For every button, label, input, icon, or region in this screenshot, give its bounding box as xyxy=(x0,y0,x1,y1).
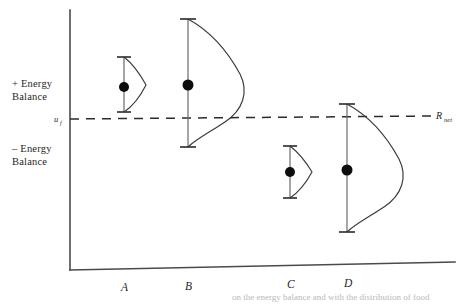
reference-subscript-label: net xyxy=(444,116,452,123)
mean-dot-a xyxy=(119,82,129,92)
category-label-b: B xyxy=(185,280,192,292)
positive-energy-label-line1: + Energy xyxy=(12,78,53,89)
distribution-c xyxy=(283,146,312,198)
density-curve-b xyxy=(188,19,244,147)
energy-balance-figure: + Energy Balance – Energy Balance u f R … xyxy=(0,0,461,304)
positive-energy-label-line2: Balance xyxy=(12,91,47,102)
density-curve-d xyxy=(347,104,403,232)
distribution-a xyxy=(117,57,146,112)
negative-energy-label-line1: – Energy xyxy=(11,143,52,154)
threshold-symbol-label: u xyxy=(54,114,58,124)
negative-energy-label-line2: Balance xyxy=(12,156,47,167)
mean-dot-b xyxy=(183,80,194,91)
threshold-subscript-label: f xyxy=(60,120,63,126)
mean-dot-c xyxy=(285,167,295,177)
threshold-dashed-line xyxy=(70,116,432,119)
caption-fragment: on the energy balance and with the distr… xyxy=(232,293,461,302)
category-label-c: C xyxy=(287,278,295,290)
distribution-d xyxy=(339,104,403,232)
category-label-d: D xyxy=(343,277,353,289)
x-axis-line xyxy=(70,262,455,270)
figure-canvas: + Energy Balance – Energy Balance u f R … xyxy=(0,0,461,304)
category-label-a: A xyxy=(120,281,129,293)
mean-dot-d xyxy=(342,165,353,176)
distribution-b xyxy=(180,19,244,147)
reference-symbol-label: R xyxy=(435,110,442,121)
